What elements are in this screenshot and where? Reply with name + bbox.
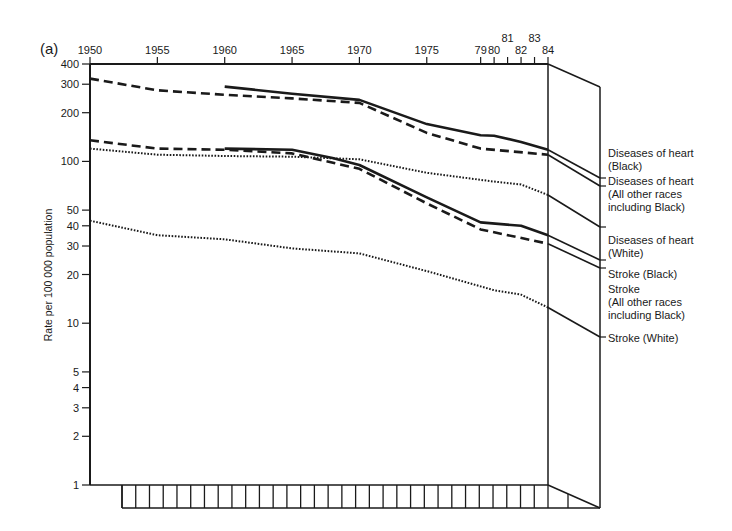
x-tick-label: 81 bbox=[501, 32, 513, 44]
chart-frame bbox=[90, 64, 600, 508]
legend-connector bbox=[548, 195, 600, 227]
legend-label: Diseases of heart bbox=[608, 175, 694, 187]
legend-label: (White) bbox=[608, 247, 643, 259]
y-tick-label: 300 bbox=[61, 78, 79, 90]
legend-connector bbox=[548, 308, 600, 337]
y-tick-label: 4 bbox=[73, 382, 79, 394]
bottom-strip bbox=[122, 485, 568, 508]
legend-connector bbox=[548, 150, 600, 178]
legend-label: including Black) bbox=[608, 309, 685, 321]
x-tick-label: 80 bbox=[488, 44, 500, 56]
y-tick-label: 5 bbox=[73, 366, 79, 378]
series-line bbox=[90, 221, 548, 308]
legend-label: Stroke (White) bbox=[608, 332, 678, 344]
legend: Diseases of heart(Black)Diseases of hear… bbox=[548, 147, 694, 344]
y-axis-label: Rate per 100 000 population bbox=[42, 209, 54, 342]
y-tick-label: 200 bbox=[61, 107, 79, 119]
line-chart: (a) 195019551960196519701975798081828384… bbox=[0, 0, 732, 531]
x-tick-label: 1970 bbox=[347, 44, 371, 56]
series-line bbox=[225, 87, 548, 150]
legend-label: Stroke bbox=[608, 283, 640, 295]
y-tick-label: 40 bbox=[67, 220, 79, 232]
y-axis: 400300200100504030201054321 bbox=[61, 58, 90, 491]
legend-label: Diseases of heart bbox=[608, 234, 694, 246]
y-tick-label: 20 bbox=[67, 269, 79, 281]
legend-connector bbox=[548, 155, 600, 186]
legend-label: Stroke (Black) bbox=[608, 268, 677, 280]
x-tick-label: 83 bbox=[528, 32, 540, 44]
y-tick-label: 50 bbox=[67, 204, 79, 216]
x-tick-label: 79 bbox=[475, 44, 487, 56]
legend-label: (All other races bbox=[608, 296, 682, 308]
x-tick-label: 84 bbox=[542, 44, 554, 56]
legend-label: (Black) bbox=[608, 160, 642, 172]
x-tick-label: 82 bbox=[515, 44, 527, 56]
x-axis: 195019551960196519701975798081828384 bbox=[78, 32, 554, 64]
y-tick-label: 30 bbox=[67, 240, 79, 252]
x-tick-label: 1950 bbox=[78, 44, 102, 56]
x-tick-label: 1960 bbox=[212, 44, 236, 56]
y-tick-label: 2 bbox=[73, 430, 79, 442]
y-tick-label: 3 bbox=[73, 402, 79, 414]
x-tick-label: 1955 bbox=[145, 44, 169, 56]
y-tick-label: 10 bbox=[67, 317, 79, 329]
y-tick-label: 1 bbox=[73, 479, 79, 491]
series-lines bbox=[90, 79, 548, 308]
y-tick-label: 100 bbox=[61, 155, 79, 167]
legend-label: including Black) bbox=[608, 201, 685, 213]
panel-label: (a) bbox=[40, 40, 58, 57]
series-line bbox=[90, 79, 548, 155]
series-line bbox=[225, 149, 548, 236]
y-tick-label: 400 bbox=[61, 58, 79, 70]
x-tick-label: 1975 bbox=[415, 44, 439, 56]
legend-label: Diseases of heart bbox=[608, 147, 694, 159]
x-tick-label: 1965 bbox=[280, 44, 304, 56]
legend-label: (All other races bbox=[608, 188, 682, 200]
